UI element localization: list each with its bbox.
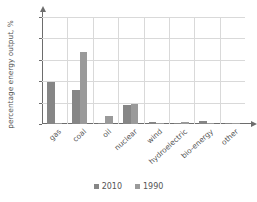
bar-oil-1990 [105, 116, 113, 124]
x-axis-label-coal: coal [71, 127, 88, 144]
bar-gas-2010 [47, 82, 55, 124]
gridline-vertical [144, 17, 145, 124]
legend-swatch-2010 [94, 184, 99, 189]
gridline-vertical [118, 17, 119, 124]
bar-other-2010 [225, 123, 233, 124]
gridline-vertical [220, 17, 221, 124]
y-axis-tick [39, 81, 42, 82]
x-axis-label-oil: oil [101, 127, 113, 139]
x-axis-label-gas: gas [47, 127, 63, 142]
legend-item-2010: 2010 [94, 182, 122, 191]
x-axis-label-wind: wind [145, 127, 164, 145]
bar-bio-energy-1990 [207, 123, 215, 124]
gridline-vertical [169, 17, 170, 124]
y-axis-title: percentage energy output, % [6, 14, 15, 136]
y-axis-line [42, 11, 43, 124]
y-axis-arrow-icon [40, 6, 46, 12]
bar-coal-2010 [72, 90, 80, 124]
bar-wind-2010 [149, 122, 157, 124]
y-axis-tick [39, 103, 42, 104]
bar-gas-1990 [55, 123, 63, 124]
bar-bio-energy-2010 [199, 121, 207, 124]
bar-oil-2010 [98, 123, 106, 124]
legend-label-1990: 1990 [143, 182, 163, 191]
bar-hydroelectric-2010 [174, 123, 182, 124]
bar-hydroelectric-1990 [181, 122, 189, 124]
chart-legend: 2010 1990 [0, 182, 257, 191]
y-axis-tick [39, 38, 42, 39]
bar-nuclear-2010 [123, 105, 131, 124]
y-axis-tick [39, 17, 42, 18]
legend-label-2010: 2010 [102, 182, 122, 191]
x-axis-arrow-icon [251, 121, 257, 127]
y-axis-tick [39, 124, 42, 125]
gridline-vertical [67, 17, 68, 124]
gridline-vertical [194, 17, 195, 124]
gridline-vertical [93, 17, 94, 124]
bar-chart: percentage energy output, % 020406080100… [0, 0, 257, 202]
plot-area: 020406080100 [42, 17, 245, 124]
bar-coal-1990 [80, 52, 88, 124]
bar-wind-1990 [156, 123, 164, 124]
legend-item-1990: 1990 [135, 182, 163, 191]
x-axis-label-other: other [219, 127, 240, 147]
legend-swatch-1990 [135, 184, 140, 189]
bar-nuclear-1990 [131, 104, 139, 124]
x-axis-label-nuclear: nuclear [112, 127, 139, 152]
y-axis-tick [39, 60, 42, 61]
bar-other-1990 [232, 123, 240, 124]
